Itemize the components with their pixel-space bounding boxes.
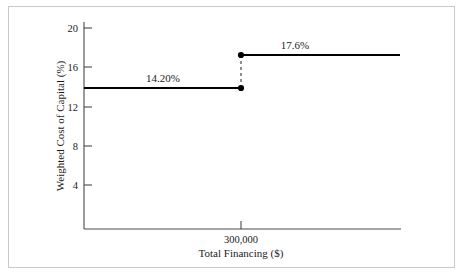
x-axis-title: Total Financing ($): [199, 247, 284, 260]
y-tick-label-4: 4: [73, 180, 79, 191]
step-chart: 20 16 12 8 4 Weighted Cost of Capital (%…: [0, 0, 466, 279]
y-axis-title: Weighted Cost of Capital (%): [54, 60, 67, 191]
step-label-1: 14.20%: [146, 72, 180, 84]
y-tick-label-20: 20: [68, 23, 79, 34]
y-tick-label-8: 8: [73, 141, 78, 152]
step-marker-lower: [238, 85, 244, 91]
y-tick-label-12: 12: [68, 102, 79, 113]
step-label-2: 17.6%: [281, 39, 309, 51]
step-marker-upper: [238, 52, 244, 58]
x-tick-label-300000: 300,000: [224, 234, 258, 245]
y-tick-label-16: 16: [68, 62, 79, 73]
